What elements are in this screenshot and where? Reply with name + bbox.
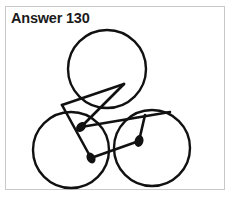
- matchstick-right-head: [133, 134, 144, 148]
- puzzle-answer-figure: Answer 130: [0, 0, 232, 197]
- right-circle: [114, 110, 190, 186]
- matchstick-lower-head: [85, 151, 98, 165]
- top-circle: [68, 30, 146, 108]
- page-title: Answer 130: [11, 11, 90, 26]
- circles-group: [33, 30, 190, 188]
- matchstick-puzzle-drawing: [0, 0, 232, 197]
